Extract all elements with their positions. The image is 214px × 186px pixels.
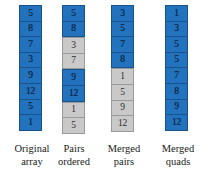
column-label-line1: Merged — [148, 143, 208, 156]
array-cell: 5 — [62, 5, 85, 22]
array-cell: 7 — [19, 36, 42, 53]
array-cell: 5 — [111, 21, 134, 38]
array-cell: 1 — [19, 114, 42, 131]
array-cell: 7 — [165, 67, 188, 84]
array-cell: 9 — [165, 99, 188, 116]
array-cell: 1 — [111, 68, 134, 85]
array-cell: 3 — [111, 5, 134, 22]
array-cell: 5 — [19, 5, 42, 22]
array-cell: 8 — [111, 52, 134, 69]
array-cell: 7 — [111, 36, 134, 53]
array-cell: 12 — [62, 85, 85, 102]
array-column-merged-quads: 135578912 — [165, 5, 188, 131]
array-cell: 12 — [111, 115, 134, 132]
array-column-merged-pairs: 357815912 — [111, 5, 134, 132]
array-cell: 9 — [62, 69, 85, 86]
merge-sort-figure: 587391251 583791215 357815912 135578912 … — [0, 0, 214, 186]
column-label-merged-quads: Merged quads — [148, 143, 208, 168]
array-cell: 5 — [165, 52, 188, 69]
array-cell: 5 — [165, 36, 188, 53]
column-label-line2: quads — [148, 156, 208, 169]
column-label-line2: pairs — [94, 156, 154, 169]
array-cell: 12 — [19, 83, 42, 100]
array-cell: 3 — [165, 21, 188, 38]
array-cell: 9 — [19, 67, 42, 84]
array-cell: 8 — [62, 21, 85, 38]
array-cell: 3 — [62, 37, 85, 54]
array-cell: 3 — [19, 52, 42, 69]
array-cell: 5 — [62, 117, 85, 134]
array-cell: 5 — [19, 99, 42, 116]
column-label-line1: Merged — [94, 143, 154, 156]
array-cell: 8 — [165, 83, 188, 100]
array-cell: 9 — [111, 100, 134, 117]
column-labels: Original array Pairs ordered Merged pair… — [0, 143, 214, 183]
array-cell: 12 — [165, 114, 188, 131]
column-label-merged-pairs: Merged pairs — [94, 143, 154, 168]
array-column-original: 587391251 — [19, 5, 42, 131]
array-column-pairs-ordered: 583791215 — [62, 5, 85, 134]
array-cell: 8 — [19, 21, 42, 38]
array-cell: 7 — [62, 53, 85, 70]
array-cell: 1 — [165, 5, 188, 22]
array-cell: 1 — [62, 102, 85, 119]
array-cell: 5 — [111, 84, 134, 101]
